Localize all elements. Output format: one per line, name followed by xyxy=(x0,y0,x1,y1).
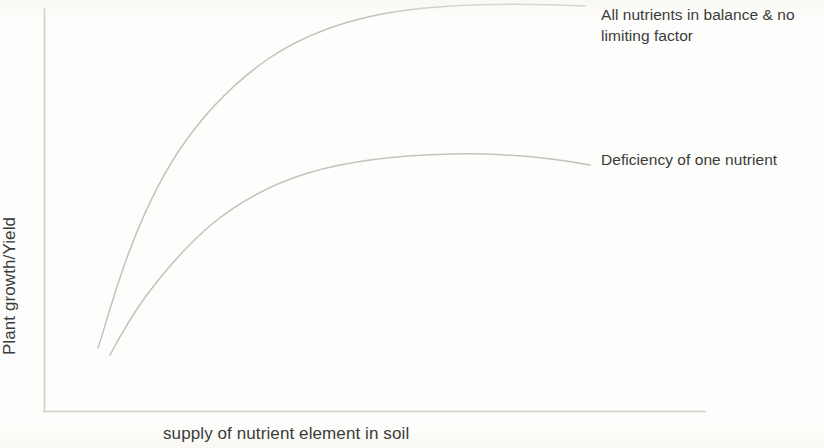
chart-figure: Plant growth/Yield supply of nutrient el… xyxy=(0,0,824,448)
plot-area xyxy=(0,0,824,448)
series-line-balanced xyxy=(98,4,585,348)
series-line-deficient xyxy=(110,154,590,355)
series-label-balanced-line-2: limiting factor xyxy=(601,26,821,47)
y-axis-title: Plant growth/Yield xyxy=(0,196,20,376)
series-label-balanced: All nutrients in balance & no limiting f… xyxy=(601,5,821,47)
series-label-balanced-line-1: All nutrients in balance & no xyxy=(601,5,821,26)
series-label-deficient: Deficiency of one nutrient xyxy=(601,150,821,171)
x-axis-title: supply of nutrient element in soil xyxy=(163,424,409,444)
